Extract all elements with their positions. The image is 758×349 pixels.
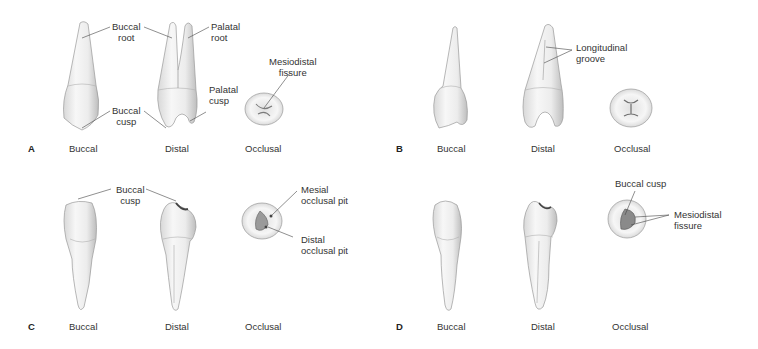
panel-b: Longitudinal groove B Buccal Distal Occl… [379,0,758,174]
label-mesiodistal-fissure: Mesiodistal fissure [269,56,317,78]
tooth-c-buccal [64,201,97,309]
view-label-distal: Distal [531,143,555,154]
view-label-buccal: Buccal [437,321,466,332]
tooth-c-occlusal [242,203,282,239]
label-buccal-cusp: Buccal cusp [615,178,666,189]
panel-c: Buccal cusp Mesial occlusal pit Distal o… [0,175,379,349]
panel-a-illustration [0,0,379,174]
tooth-d-occlusal [608,200,646,238]
tooth-d-distal [524,201,557,309]
view-label-distal: Distal [165,143,189,154]
label-palatal-root: Palatal root [211,21,240,43]
view-label-occlusal: Occlusal [245,321,281,332]
label-mesial-occlusal-pit: Mesial occlusal pit [301,184,348,206]
view-label-occlusal: Occlusal [245,143,281,154]
panel-letter: C [28,321,35,332]
view-label-occlusal: Occlusal [612,321,648,332]
tooth-b-buccal [434,27,468,129]
panel-d: Buccal cusp Mesiodistal fissure D Buccal… [379,175,758,349]
panel-d-illustration [379,175,758,349]
panel-letter: B [396,143,403,154]
panel-b-illustration [379,0,758,174]
view-label-buccal: Buccal [69,321,98,332]
view-label-distal: Distal [165,321,189,332]
label-distal-occlusal-pit: Distal occlusal pit [301,234,348,256]
view-label-occlusal: Occlusal [614,143,650,154]
tooth-b-distal [523,24,563,127]
label-buccal-root: Buccal root [112,21,141,43]
tooth-a-distal [158,22,197,127]
tooth-b-occlusal [610,89,652,127]
view-label-buccal: Buccal [437,143,466,154]
panel-a: Buccal root Palatal root Mesiodistal fis… [0,0,379,174]
view-label-buccal: Buccal [69,143,98,154]
label-buccal-cusp: Buccal cusp [116,184,145,206]
panel-letter: A [28,143,35,154]
label-palatal-cusp: Palatal cusp [209,84,238,106]
tooth-a-buccal [64,22,99,130]
tooth-c-distal [160,203,196,311]
view-label-distal: Distal [531,321,555,332]
tooth-d-buccal [433,201,462,310]
label-mesiodistal-fissure: Mesiodistal fissure [674,209,722,231]
tooth-a-occlusal [245,93,283,125]
label-longitudinal-groove: Longitudinal groove [576,42,627,64]
label-buccal-cusp: Buccal cusp [112,105,141,127]
panel-letter: D [396,321,403,332]
